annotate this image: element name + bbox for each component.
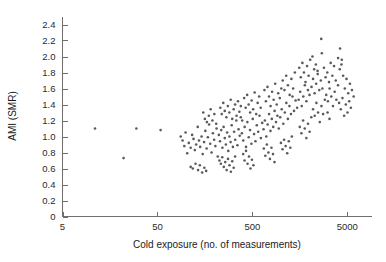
data-point bbox=[337, 84, 340, 87]
data-point bbox=[194, 162, 197, 165]
data-point bbox=[227, 158, 230, 161]
x-tick-label: 5 bbox=[60, 221, 65, 232]
data-point bbox=[263, 89, 266, 92]
data-point bbox=[340, 63, 343, 66]
data-point bbox=[288, 94, 291, 97]
data-point bbox=[203, 141, 206, 144]
data-point bbox=[225, 143, 228, 146]
y-tick-label: 1.4 bbox=[42, 99, 55, 110]
data-point bbox=[210, 151, 213, 154]
data-point bbox=[232, 166, 235, 169]
data-point bbox=[234, 138, 237, 141]
data-point bbox=[219, 106, 222, 109]
data-point bbox=[326, 111, 329, 114]
data-point bbox=[276, 114, 279, 117]
y-tick-label: 1.0 bbox=[42, 131, 55, 142]
data-point bbox=[253, 91, 256, 94]
data-point bbox=[179, 135, 182, 138]
data-point bbox=[298, 126, 301, 129]
data-point bbox=[202, 111, 205, 114]
data-point bbox=[320, 38, 323, 41]
data-point bbox=[266, 123, 269, 126]
data-point bbox=[324, 98, 327, 101]
data-point bbox=[294, 99, 297, 102]
data-point bbox=[222, 126, 225, 129]
data-point bbox=[208, 123, 211, 126]
data-point bbox=[272, 98, 275, 101]
data-point bbox=[264, 154, 267, 157]
data-point bbox=[325, 94, 328, 97]
data-point bbox=[288, 105, 291, 108]
data-point bbox=[330, 95, 333, 98]
data-point bbox=[228, 164, 231, 167]
data-point bbox=[208, 114, 211, 117]
data-point bbox=[347, 92, 350, 95]
data-point bbox=[228, 111, 231, 114]
data-point bbox=[236, 144, 239, 147]
data-point bbox=[328, 81, 331, 84]
data-point bbox=[345, 78, 348, 81]
data-point bbox=[266, 86, 269, 89]
data-point bbox=[222, 166, 225, 169]
data-point bbox=[302, 119, 305, 122]
data-point bbox=[308, 94, 311, 97]
data-point bbox=[305, 137, 308, 140]
data-point bbox=[272, 126, 275, 129]
data-point bbox=[243, 126, 246, 129]
data-point bbox=[189, 166, 192, 169]
scatter-plot-figure: 00.20.40.60.81.01.21.41.61.82.02.22.4 55… bbox=[0, 0, 386, 262]
data-point bbox=[328, 118, 331, 121]
data-point bbox=[267, 151, 270, 154]
data-point bbox=[213, 138, 216, 141]
data-point bbox=[305, 100, 308, 103]
data-point bbox=[235, 114, 238, 117]
data-point bbox=[228, 135, 231, 138]
data-point bbox=[216, 155, 219, 158]
data-point bbox=[346, 111, 349, 114]
data-point bbox=[285, 102, 288, 105]
y-tick-label: 2.2 bbox=[42, 35, 55, 46]
data-point bbox=[293, 110, 296, 113]
data-point bbox=[229, 98, 232, 101]
data-point bbox=[232, 146, 235, 149]
data-point bbox=[271, 90, 274, 93]
data-point bbox=[122, 157, 125, 160]
data-point bbox=[249, 129, 252, 132]
data-point bbox=[298, 66, 301, 69]
data-point bbox=[199, 146, 202, 149]
x-tick-label: 50 bbox=[152, 221, 163, 232]
data-point bbox=[206, 121, 209, 124]
data-point bbox=[262, 147, 265, 150]
data-point bbox=[273, 161, 276, 164]
data-point bbox=[283, 89, 286, 92]
y-tick-label: 2.0 bbox=[42, 51, 55, 62]
data-point bbox=[309, 58, 312, 61]
y-tick-label: 2.4 bbox=[42, 19, 55, 30]
data-point bbox=[333, 90, 336, 93]
data-point bbox=[135, 127, 138, 130]
data-point bbox=[344, 87, 347, 90]
data-point bbox=[223, 110, 226, 113]
data-point bbox=[339, 47, 342, 50]
data-point bbox=[316, 70, 319, 73]
data-point bbox=[231, 160, 234, 163]
data-point bbox=[235, 119, 238, 122]
y-tick-label: 0.4 bbox=[42, 179, 55, 190]
data-point bbox=[213, 113, 216, 116]
data-point bbox=[275, 103, 278, 106]
data-point bbox=[286, 152, 289, 155]
data-point bbox=[280, 142, 283, 145]
data-point bbox=[313, 68, 316, 71]
data-point bbox=[318, 121, 321, 124]
data-point bbox=[220, 162, 223, 165]
x-tick-label: 500 bbox=[244, 221, 260, 232]
data-point bbox=[307, 122, 310, 125]
data-point bbox=[283, 138, 286, 141]
data-point bbox=[250, 99, 253, 102]
data-point bbox=[215, 122, 218, 125]
data-point bbox=[242, 139, 245, 142]
data-point bbox=[265, 100, 268, 103]
x-tick-label: 5000 bbox=[337, 221, 358, 232]
data-point bbox=[258, 114, 261, 117]
data-point bbox=[192, 167, 195, 170]
